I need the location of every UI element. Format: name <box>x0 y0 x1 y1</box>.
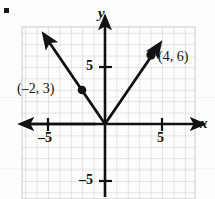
x-tick-label-neg5: –5 <box>38 131 52 145</box>
y-tick-label-5: 5 <box>86 59 93 73</box>
scan-artifact-band <box>0 168 215 169</box>
y-axis-label: y <box>98 6 105 21</box>
point-marker-4-6 <box>146 50 155 59</box>
x-tick-label-5: 5 <box>157 131 164 145</box>
y-tick-label-neg5: –5 <box>79 173 93 187</box>
x-axis-label: x <box>200 116 208 131</box>
point-marker-neg2-3 <box>78 86 87 95</box>
scan-artifact-band <box>0 97 215 98</box>
point-label-right: (4, 6) <box>158 50 188 64</box>
graph-figure: x y –5 5 5 –5 (–2, 3) (4, 6) <box>0 0 215 199</box>
coordinate-plane-svg <box>0 0 215 199</box>
point-label-left: (–2, 3) <box>17 82 54 96</box>
